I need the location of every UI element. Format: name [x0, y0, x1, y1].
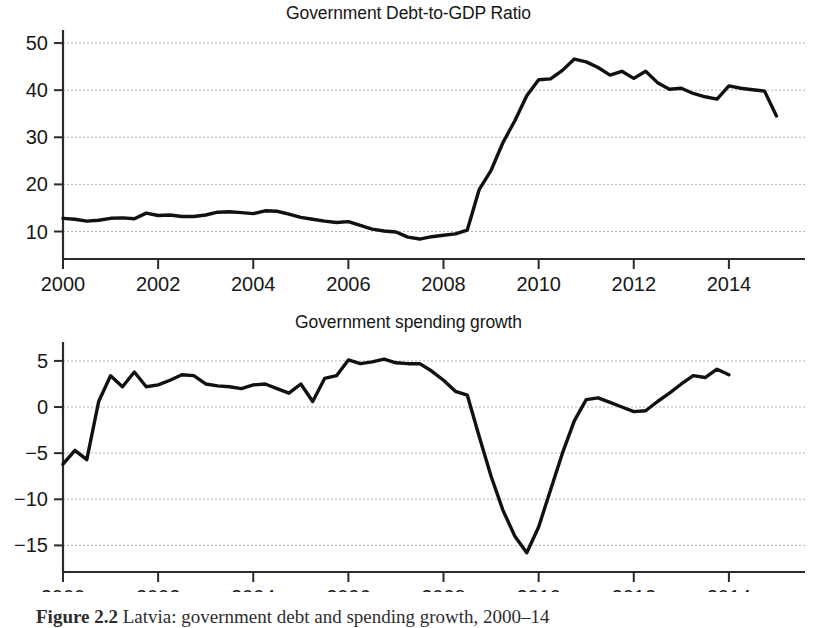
x-tick-label: 2006 [326, 273, 371, 295]
x-tick-label: 2002 [136, 273, 181, 295]
y-tick-label: −10 [14, 488, 48, 510]
x-tick-label: 2002 [136, 586, 181, 592]
panel-spending-growth: Government spending growth −15−10−505200… [0, 300, 817, 592]
y-tick-label: 30 [26, 126, 48, 148]
y-tick-label: 20 [26, 173, 48, 195]
y-tick-label: 50 [26, 32, 48, 54]
x-tick-label: 2010 [516, 273, 561, 295]
x-tick-label: 2014 [707, 586, 752, 592]
x-tick-label: 2014 [707, 273, 752, 295]
y-tick-label: −5 [25, 442, 48, 464]
x-tick-label: 2008 [421, 273, 466, 295]
figure-caption: Figure 2.2 Latvia: government debt and s… [0, 603, 817, 628]
x-tick-label: 2012 [612, 273, 657, 295]
series-line [63, 59, 776, 239]
figure-container: Government Debt-to-GDP Ratio 10203040502… [0, 0, 817, 628]
y-tick-label: 10 [26, 221, 48, 243]
y-tick-label: 0 [37, 396, 48, 418]
debt-chart-plot: 1020304050200020022004200620082010201220… [0, 0, 817, 300]
x-tick-label: 2004 [231, 586, 276, 592]
y-tick-label: 5 [37, 350, 48, 372]
x-tick-label: 2000 [41, 586, 86, 592]
x-tick-label: 2012 [612, 586, 657, 592]
x-tick-label: 2004 [231, 273, 276, 295]
figure-caption-text: Latvia: government debt and spending gro… [123, 606, 550, 627]
x-tick-label: 2000 [41, 273, 86, 295]
spending-chart-plot: −15−10−505200020022004200620082010201220… [0, 300, 817, 592]
panel-debt-to-gdp: Government Debt-to-GDP Ratio 10203040502… [0, 0, 817, 300]
y-tick-label: −15 [14, 534, 48, 556]
x-tick-label: 2010 [516, 586, 561, 592]
figure-caption-label: Figure 2.2 [36, 606, 118, 627]
x-tick-label: 2008 [421, 586, 466, 592]
series-line [63, 359, 729, 553]
x-tick-label: 2006 [326, 586, 371, 592]
y-tick-label: 40 [26, 79, 48, 101]
